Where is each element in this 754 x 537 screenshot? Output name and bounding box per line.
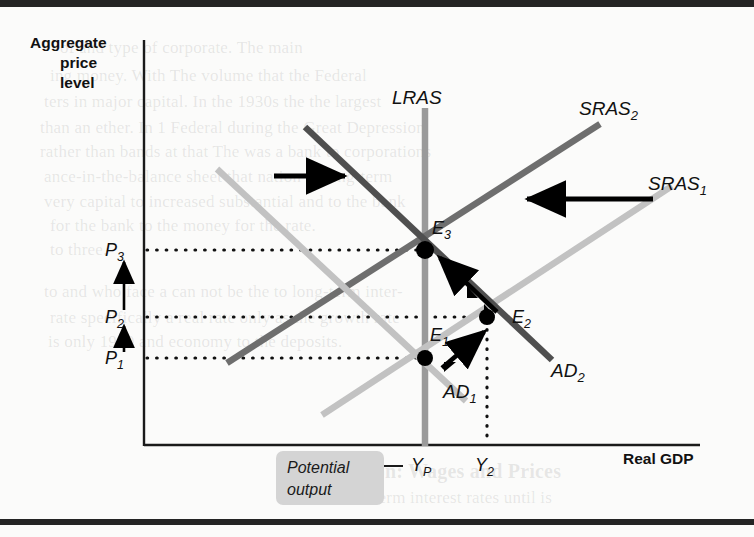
point-e1 xyxy=(417,350,433,366)
curve-label-sras2: SRAS2 xyxy=(579,98,639,123)
point-e2 xyxy=(479,309,495,325)
potential-output-label-line2: output xyxy=(287,481,332,498)
y-axis-title-line3: level xyxy=(60,74,94,91)
curve-label-lras: LRAS xyxy=(392,87,442,108)
curve-label-ad2: AD2 xyxy=(550,360,585,385)
curve-sras2 xyxy=(227,124,600,363)
ad-as-diagram: Aggregate price level Real GDP P3 P2 P1 … xyxy=(0,0,754,537)
figure-page: of and type of corporate. The maining mo… xyxy=(0,0,754,537)
curve-label-ad1: AD1 xyxy=(442,381,477,406)
tick-label-yp: YP xyxy=(411,455,432,479)
y-axis-title-line1: Aggregate xyxy=(30,34,107,51)
tick-label-y2: Y2 xyxy=(475,455,494,479)
point-e3 xyxy=(416,241,434,259)
y-axis-title-line2: price xyxy=(60,54,97,71)
tick-label-p3: P3 xyxy=(105,240,124,264)
x-axis-title: Real GDP xyxy=(623,450,694,467)
tick-label-p2: P2 xyxy=(105,307,124,331)
potential-output-label-line1: Potential xyxy=(287,459,350,476)
curve-sras1 xyxy=(322,186,672,415)
guide-lines xyxy=(147,250,487,443)
curve-ad1 xyxy=(217,169,466,401)
tick-label-p1: P1 xyxy=(105,348,124,372)
